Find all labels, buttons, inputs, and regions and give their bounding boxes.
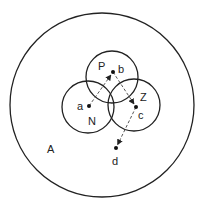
region-A-circle xyxy=(10,13,194,197)
regions xyxy=(10,13,194,197)
labels: APNZabcd xyxy=(47,60,147,167)
point-b-label: b xyxy=(118,63,124,75)
region-Z-circle xyxy=(108,79,160,131)
region-Z-label: Z xyxy=(140,91,147,103)
region-N-label: N xyxy=(88,115,96,127)
point-b-dot xyxy=(111,70,115,74)
point-d-dot xyxy=(114,146,118,150)
arrow-c-to-d xyxy=(118,107,136,144)
venn-diagram: APNZabcd xyxy=(0,0,204,212)
point-c-label: c xyxy=(138,109,144,121)
arrow-b-to-c xyxy=(113,72,134,104)
point-a-dot xyxy=(87,104,91,108)
point-d-label: d xyxy=(112,155,118,167)
region-P-label: P xyxy=(98,60,105,72)
region-A-label: A xyxy=(47,143,55,155)
region-P-circle xyxy=(86,51,138,103)
point-a-label: a xyxy=(77,100,84,112)
